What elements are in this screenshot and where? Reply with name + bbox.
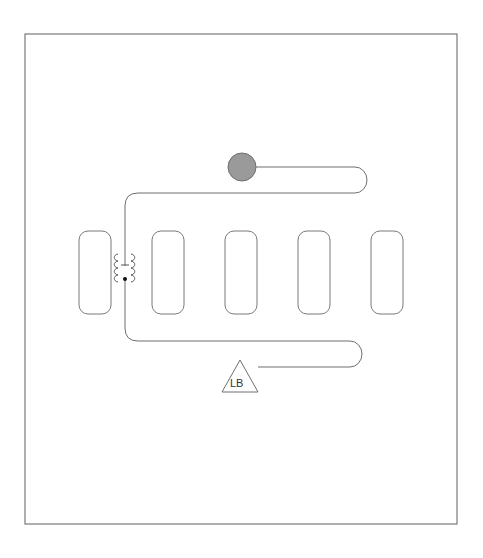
diagram-canvas bbox=[0, 0, 483, 558]
start-circle-icon bbox=[228, 153, 256, 181]
block-5 bbox=[371, 231, 403, 314]
end-marker-label: LB bbox=[230, 377, 243, 389]
block-4 bbox=[298, 231, 330, 314]
block-3 bbox=[225, 231, 257, 314]
block-2 bbox=[152, 231, 184, 314]
block-1 bbox=[79, 231, 111, 314]
